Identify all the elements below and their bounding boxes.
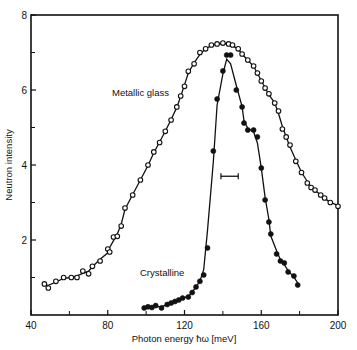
data-point-open — [119, 224, 124, 229]
x-tick-label: 40 — [25, 320, 37, 331]
data-point-open — [61, 275, 66, 280]
data-point-open — [107, 250, 112, 255]
data-point-filled — [268, 232, 273, 237]
data-point-filled — [240, 104, 245, 109]
y-axis-title: Neutron intensity — [3, 129, 14, 201]
data-point-open — [54, 279, 59, 284]
data-point-open — [313, 188, 318, 193]
data-point-open — [152, 150, 157, 155]
data-point-filled — [215, 97, 220, 102]
data-point-open — [251, 64, 256, 69]
data-point-filled — [255, 134, 260, 139]
y-tick-label: 8 — [21, 10, 27, 21]
y-tick-label: 2 — [21, 235, 27, 246]
data-point-filled — [180, 296, 185, 301]
data-point-filled — [159, 305, 164, 310]
data-point-open — [280, 127, 285, 132]
data-point-open — [305, 181, 310, 186]
data-point-open — [42, 282, 47, 287]
data-point-open — [146, 163, 151, 168]
data-point-open — [276, 109, 281, 114]
data-point-filled — [245, 128, 250, 133]
data-point-open — [192, 62, 197, 67]
data-point-open — [157, 140, 162, 145]
neutron-spectrum-chart: 40801201602002468 Metallic glass Crystal… — [0, 0, 357, 350]
data-point-filled — [251, 128, 256, 133]
data-point-open — [69, 275, 74, 280]
x-axis-title: Photon energy ħω [meV] — [132, 333, 237, 344]
data-point-open — [322, 196, 327, 201]
data-point-open — [236, 47, 241, 52]
annotations — [221, 173, 238, 179]
metallic-glass-series — [42, 41, 340, 291]
data-point-open — [86, 272, 91, 277]
data-point-filled — [274, 251, 279, 256]
data-series — [42, 41, 340, 311]
data-point-open — [215, 42, 220, 47]
data-point-open — [263, 86, 268, 91]
axis-ticks — [31, 15, 338, 315]
data-point-open — [198, 50, 203, 55]
x-tick-label: 200 — [330, 320, 347, 331]
data-point-open — [272, 101, 277, 106]
data-point-open — [178, 94, 183, 99]
data-point-open — [246, 58, 251, 63]
x-tick-label: 160 — [253, 320, 270, 331]
data-point-open — [203, 47, 208, 52]
data-point-filled — [197, 279, 202, 284]
data-point-filled — [153, 303, 158, 308]
data-point-open — [299, 170, 304, 175]
data-point-open — [284, 135, 289, 140]
data-point-open — [98, 259, 103, 264]
x-tick-label: 120 — [176, 320, 193, 331]
data-point-filled — [228, 53, 233, 58]
data-point-filled — [201, 272, 206, 277]
data-point-open — [81, 269, 86, 274]
data-point-open — [186, 69, 191, 74]
data-point-open — [259, 79, 264, 84]
data-point-filled — [211, 149, 216, 154]
data-point-open — [90, 264, 95, 269]
data-point-open — [175, 105, 180, 110]
data-point-open — [288, 143, 293, 148]
data-point-filled — [259, 166, 264, 171]
data-point-filled — [194, 284, 199, 289]
y-tick-label: 6 — [21, 85, 27, 96]
data-point-open — [169, 118, 174, 123]
crystalline-label: Crystalline — [140, 267, 184, 278]
data-point-open — [130, 193, 135, 198]
data-point-filled — [220, 68, 225, 73]
data-point-filled — [282, 260, 287, 265]
data-point-open — [163, 129, 168, 134]
data-point-open — [138, 178, 143, 183]
metallic-glass-label: Metallic glass — [112, 87, 169, 98]
x-tick-label: 80 — [102, 320, 114, 331]
data-point-open — [123, 206, 128, 211]
data-point-filled — [295, 283, 300, 288]
plot-frame — [31, 15, 338, 315]
data-point-open — [209, 43, 214, 48]
y-tick-label: 4 — [21, 160, 27, 171]
data-point-filled — [242, 121, 247, 126]
data-point-open — [294, 159, 299, 164]
data-point-filled — [234, 88, 239, 93]
data-point-open — [75, 275, 80, 280]
data-point-filled — [266, 220, 271, 225]
data-point-filled — [286, 269, 291, 274]
data-point-filled — [263, 197, 268, 202]
data-point-open — [328, 200, 333, 205]
data-point-open — [255, 71, 260, 76]
data-point-filled — [186, 295, 191, 300]
data-point-filled — [291, 274, 296, 279]
data-point-open — [336, 204, 341, 209]
data-point-open — [267, 92, 272, 97]
data-point-filled — [190, 290, 195, 295]
data-point-open — [46, 286, 51, 291]
data-point-open — [221, 41, 226, 46]
data-point-open — [240, 52, 245, 57]
data-point-filled — [205, 245, 210, 250]
data-point-open — [115, 234, 120, 239]
data-point-open — [230, 43, 235, 48]
data-point-open — [182, 84, 187, 89]
